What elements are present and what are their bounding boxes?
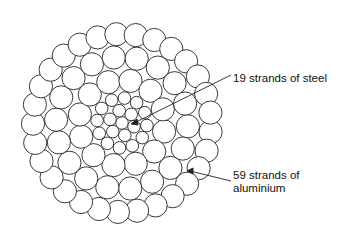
aluminium-strand: [47, 131, 70, 154]
steel-strand: [105, 94, 118, 107]
aluminium-strand: [45, 108, 68, 131]
aluminium-strand: [174, 92, 197, 115]
steel-strand: [113, 142, 126, 155]
aluminium-strands-label: 59 strands of aluminium: [233, 169, 299, 195]
aluminium-strand: [102, 46, 125, 69]
aluminium-strand: [199, 101, 222, 124]
steel-strand: [113, 104, 126, 117]
steel-strand: [126, 140, 139, 153]
steel-strand: [119, 129, 132, 142]
aluminium-strand: [141, 170, 164, 193]
aluminium-strand: [70, 125, 93, 148]
aluminium-strand: [151, 98, 174, 121]
steel-strands: [91, 92, 153, 154]
steel-strand: [93, 127, 106, 140]
steel-strand: [118, 92, 131, 105]
steel-strand: [91, 114, 104, 127]
conductor-cross-section: [0, 0, 338, 242]
aluminium-label-line2: aluminium: [233, 182, 299, 195]
aluminium-strand: [125, 47, 148, 70]
aluminium-strand: [97, 71, 120, 94]
steel-strands-label: 19 strands of steel: [233, 72, 327, 85]
aluminium-label-line1: 59 strands of: [233, 169, 299, 182]
steel-strand: [101, 137, 114, 150]
steel-strand: [141, 119, 154, 132]
aluminium-strand: [176, 115, 199, 138]
steel-strand: [136, 131, 149, 144]
aluminium-strand: [80, 53, 103, 76]
aluminium-strand: [124, 152, 147, 175]
aluminium-strand: [119, 177, 142, 200]
steel-strand: [139, 106, 152, 119]
steel-strand: [125, 108, 138, 121]
aluminium-strand: [163, 72, 186, 95]
steel-strand: [95, 102, 108, 115]
steel-strand: [130, 96, 143, 109]
aluminium-strand: [96, 176, 119, 199]
steel-strand: [107, 125, 120, 138]
